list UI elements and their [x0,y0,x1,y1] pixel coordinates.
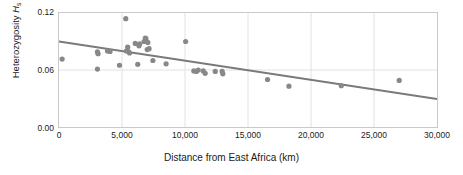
y-axis-title-symbol: H [10,6,21,13]
scatter-plot-svg [59,13,437,127]
data-point [339,83,344,88]
y-tick-label: 0.00 [4,124,54,133]
x-tick-label: 25,000 [361,131,387,140]
data-points [60,16,402,89]
data-point [286,84,291,89]
x-tick-label: 20,000 [298,131,324,140]
data-point [213,69,218,74]
data-point [265,77,270,82]
plot-frame [58,12,438,128]
data-point [397,78,402,83]
data-point [146,46,151,51]
data-point [135,62,140,67]
data-point [164,61,169,66]
data-point [123,16,128,21]
data-point [203,71,208,76]
data-point [220,71,225,76]
y-axis-tick-labels: 0.12 0.06 0.00 [0,0,54,175]
y-axis-title-text: Heterozygosity [10,13,21,78]
x-tick-label: 15,000 [235,131,261,140]
data-point [95,66,100,71]
x-tick-label: 30,000 [424,131,450,140]
x-axis-title: Distance from East Africa (km) [0,152,463,163]
x-tick-label: 5,000 [111,131,132,140]
scatter-chart-figure: 0.12 0.06 0.00 Heterozygosity Hs 05,0001… [0,0,463,175]
plot-area [59,13,437,127]
data-point [196,67,201,72]
data-point [127,50,132,55]
data-point [150,58,155,63]
data-point [145,40,150,45]
data-point [183,39,188,44]
data-point [60,56,65,61]
x-tick-label: 10,000 [172,131,198,140]
data-point [95,51,100,56]
y-axis-title: Heterozygosity Hs [10,0,23,100]
y-axis-title-subscript: s [15,3,22,6]
data-point [137,41,142,46]
data-point [107,49,112,54]
data-point [117,63,122,68]
x-tick-label: 0 [57,131,62,140]
